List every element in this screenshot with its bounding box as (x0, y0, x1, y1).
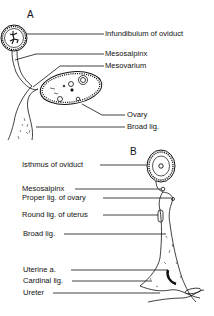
infundibulum-cross-section (1, 25, 27, 51)
label-round-lig-uterus: Round lig. of uterus (22, 210, 88, 219)
uterine-artery-shape (167, 270, 176, 284)
label-mesovarium: Mesovarium (105, 61, 146, 70)
label-broad-lig-b: Broad lig. (23, 229, 55, 238)
isthmus-cross-section (147, 150, 175, 182)
panel-b-drawing (53, 150, 204, 302)
leader-mesosalpinx-a (15, 54, 104, 60)
label-cardinal-lig: Cardinal lig. (23, 276, 63, 285)
label-isthmus: Isthmus of oviduct (22, 160, 83, 169)
ureter-shape (185, 287, 202, 295)
proper-lig-dot (172, 198, 175, 201)
label-ovary: Ovary (127, 110, 147, 119)
label-uterine-a: Uterine a. (23, 265, 56, 274)
mesosalpinx-vessel-b (161, 187, 165, 191)
ovary-shape (38, 68, 104, 108)
panel-label-b: B (130, 146, 137, 157)
panel-a-drawing (1, 25, 125, 140)
panel-label-a: A (27, 9, 34, 20)
label-mesosalpinx-b: Mesosalpinx (22, 184, 64, 193)
label-infundibulum: Infundibulum of oviduct (105, 29, 183, 38)
leader-ovary (82, 104, 125, 115)
label-proper-lig-ovary: Proper lig. of ovary (22, 193, 86, 202)
label-mesosalpinx-a: Mesosalpinx (105, 49, 147, 58)
label-ureter: Ureter (23, 288, 44, 297)
label-broad-lig-a: Broad lig. (127, 122, 159, 131)
